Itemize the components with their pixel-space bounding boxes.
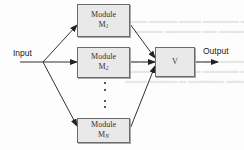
- module-1-symbol: M1: [99, 20, 109, 31]
- arrow-module-n-to-v: [130, 66, 155, 129]
- module-n-box: Module MN: [77, 118, 130, 143]
- module-2-title: Module: [91, 52, 116, 62]
- combiner-v-box: V: [155, 47, 195, 77]
- module-1-box: Module M1: [77, 4, 130, 37]
- ellipsis-dot: [104, 89, 106, 91]
- module-n-symbol: MN: [98, 130, 109, 141]
- module-2-symbol: M2: [99, 62, 109, 73]
- output-label: Output: [203, 46, 229, 56]
- combiner-v-label: V: [172, 57, 178, 67]
- module-1-subscript: 1: [106, 23, 109, 29]
- ellipsis-dot: [104, 82, 106, 84]
- arrow-to-module-1: [43, 25, 77, 62]
- module-2-subscript: 2: [106, 65, 109, 71]
- module-n-title: Module: [91, 120, 116, 130]
- ellipsis-dot: [104, 100, 106, 102]
- module-2-box: Module M2: [77, 47, 130, 78]
- module-1-title: Module: [91, 10, 116, 20]
- ellipsis-dot: [104, 106, 106, 108]
- module-n-subscript: N: [105, 133, 109, 139]
- module-1-letter: M: [99, 20, 106, 29]
- arrow-to-module-n: [43, 62, 77, 126]
- module-2-letter: M: [99, 62, 106, 71]
- diagram-canvas: ▬▬▬ ▬▬▬▬ ▬▬▬ ▬▬▬▬▬ ▬▬▬ ▬▬ ▬ ▬▬▬▬ ▬▬▬▬▬ ▬…: [0, 0, 244, 150]
- arrow-module-1-to-v: [130, 24, 155, 58]
- input-label: Input: [13, 48, 32, 58]
